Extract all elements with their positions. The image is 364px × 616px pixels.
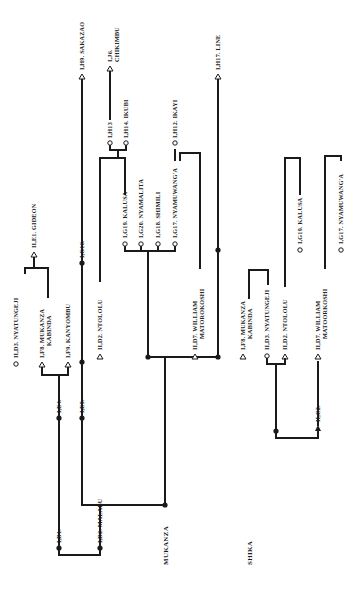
shika-i-g17-circle: [339, 248, 343, 252]
label-ii-e1: II,E1. GIDEON: [30, 203, 37, 248]
label-i-j6-a: I,J6.: [106, 49, 113, 62]
d2-e5-line: [82, 418, 165, 548]
label-i-f8-a: I,F8. MUKANZA: [38, 308, 45, 358]
i-h14-circle: [124, 141, 128, 145]
h17-junction: [215, 247, 220, 252]
label-i-g20: I,G20. NYAMALITA: [137, 179, 144, 238]
shika-group: SHIKA I,F8. MUKANZA KABINDA II,D3. NYATU…: [239, 156, 344, 565]
label-i-g19: I,G19. KALUSA: [121, 191, 128, 238]
i-h12-circle: [173, 141, 177, 145]
shika-title: SHIKA: [246, 541, 254, 565]
i-h17-triangle: [215, 74, 221, 79]
i-j6-triangle: [107, 66, 113, 71]
g19-marriage-line: [110, 145, 126, 194]
mukanza-group: MUKANZA I,D1. I,D2. MALABU I,E4. I,F8. M…: [12, 22, 221, 565]
label-ii-d7-a: II,D7. WILLIAM: [191, 301, 198, 350]
i-g19-circle: [123, 242, 127, 246]
i-g18-circle: [156, 242, 160, 246]
shika-d3-d2-bar: [267, 359, 285, 431]
i-g17-circle: [173, 242, 177, 246]
i-h9-triangle: [79, 74, 85, 79]
i-f9-triangle: [65, 362, 71, 367]
label-ii-d7-b: MATOROKOSHI: [198, 288, 205, 339]
label-i-h13: I,H13: [106, 122, 113, 138]
label-ii-d3: II,D3. NYATUNGEJI: [12, 297, 19, 358]
ii-e1-triangle: [31, 252, 37, 257]
label-i-h12: I,H12. IKAYI: [171, 99, 178, 138]
i-f8-triangle: [39, 362, 45, 367]
shika-label-ii-d7-b: MATOORKOSHI: [321, 288, 328, 339]
g-siblings-parent-node: [145, 354, 150, 359]
label-i-f8-b: KABINDA: [45, 315, 52, 346]
g-siblings-bar: [125, 246, 175, 251]
shika-label-ii-d2: II,D2. NTOLOLU: [281, 299, 288, 350]
mukanza-title: MUKANZA: [162, 526, 170, 565]
label-i-h14: I,H14. IKUBI: [122, 99, 129, 138]
trunk-line: [148, 251, 218, 505]
g17-d7-marriage: [180, 153, 200, 268]
shika-label-i-g17: I,G17. NYAMUWANG'A: [337, 173, 344, 244]
shika-label-ii-d7-a: II,D7. WILLIAM: [314, 301, 321, 350]
label-i-g18: I,G18. SHIMILI: [154, 191, 161, 238]
shika-ii-d7-triangle: [315, 354, 321, 359]
label-i-h17: I,H17. LINE: [214, 35, 221, 70]
d3-f8-marriage: [25, 258, 48, 297]
shika-i-g19-circle: [298, 248, 302, 252]
shika-i-f8-triangle: [240, 354, 246, 359]
trunk-junction: [162, 502, 167, 507]
ii-d2-triangle: [97, 354, 103, 359]
shika-label-ii-d3: II,D3. NYATUNGEJI: [263, 289, 270, 350]
label-i-h9: I,H9. SAKAZAO: [78, 22, 85, 70]
label-i-g17: I,G17. NYAMUWANG'A: [171, 167, 178, 238]
i-h13-circle: [108, 141, 112, 145]
shika-label-i-f8-a: I,F8. MUKANZA: [239, 300, 246, 350]
label-i-f9: I,F9. KANYOMBU: [64, 303, 71, 358]
d1-d2-link: [59, 548, 100, 555]
ii-d3-circle: [14, 362, 18, 366]
label-i-j6-b: CHIKIMBU: [113, 27, 120, 62]
shika-c2-link: [276, 431, 318, 438]
kinship-diagram: MUKANZA I,D1. I,D2. MALABU I,E4. I,F8. M…: [0, 0, 364, 616]
label-ii-d2: II,D2. NTOLOLU: [96, 299, 103, 350]
shika-label-i-g19: I,G19. KALUSA: [296, 197, 303, 244]
i-g20-circle: [139, 242, 143, 246]
shika-ii-d3-circle: [265, 354, 269, 358]
shika-label-i-f8-b: KABINDA: [246, 308, 253, 339]
